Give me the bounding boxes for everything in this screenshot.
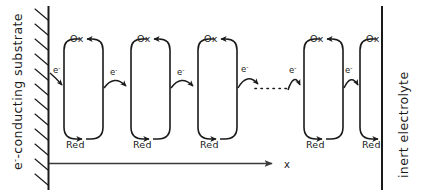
unit-2-bottom-arrow-to-red — [131, 127, 149, 139]
redox-unit-4: Ox Red — [304, 33, 343, 150]
substrate-boundary: e--conducting substrate — [10, 6, 49, 190]
diagram-canvas: e--conducting substrate inert electrolyt… — [0, 0, 428, 196]
electron-hop-0: e- — [50, 64, 62, 86]
electron-hop-5: e- — [344, 64, 358, 89]
redox-unit-3: Ox Red — [198, 33, 237, 150]
hop-2-arrow — [171, 80, 193, 88]
hop-1-label: e- — [110, 66, 117, 78]
substrate-label-rest: -conducting substrate — [10, 13, 25, 158]
hop-5-arrow — [344, 80, 358, 88]
hop-3-label: e- — [241, 63, 248, 75]
hop-4-arrow — [288, 80, 300, 90]
electron-hopping-diagram: e--conducting substrate inert electrolyt… — [0, 0, 428, 196]
unit-5-top-arrow-to-ox — [383, 39, 399, 50]
unit-2-red-label: Red — [133, 139, 152, 150]
unit-2-ox-label: Ox — [137, 33, 151, 44]
hop-5-label: e- — [345, 64, 352, 76]
electron-hop-1: e- — [104, 66, 126, 89]
unit-1-top-arrow-to-ox — [87, 39, 103, 50]
substrate-label: e--conducting substrate — [10, 13, 25, 170]
unit-3-red-label: Red — [200, 139, 219, 150]
electrolyte-label: inert electrolyte — [396, 71, 411, 178]
hop-4-label: e- — [289, 64, 296, 76]
electron-hop-4: e- — [288, 64, 300, 91]
electron-hop-2: e- — [171, 66, 193, 89]
unit-2-top-arrow-to-ox — [154, 39, 170, 50]
unit-4-top-arrow-to-ox — [327, 39, 343, 50]
hop-3-arrow — [238, 79, 258, 88]
unit-3-ox-label: Ox — [204, 33, 218, 44]
redox-unit-2: Ox Red — [131, 33, 170, 150]
unit-4-bottom-right-curve — [326, 127, 343, 139]
substrate-label-prefix: e — [10, 162, 25, 170]
unit-2-bottom-right-curve — [153, 127, 170, 139]
redox-unit-5: Ox Red — [360, 33, 399, 150]
hop-1-arrow — [104, 80, 126, 88]
electron-hop-3: e- — [238, 63, 258, 89]
electron-hops-group: e- e- e- e- — [50, 63, 358, 91]
electrolyte-boundary: inert electrolyte — [382, 6, 411, 190]
unit-3-bottom-arrow-to-red — [198, 127, 216, 139]
unit-1-red-label: Red — [66, 139, 85, 150]
unit-1-bottom-right-curve — [86, 127, 103, 139]
unit-1-bottom-arrow-to-red — [64, 127, 82, 139]
redox-units-group: Ox Red Ox Red Ox — [64, 33, 399, 150]
unit-3-top-arrow-to-ox — [221, 39, 237, 50]
unit-4-bottom-arrow-to-red — [304, 127, 322, 139]
hop-2-label: e- — [177, 66, 184, 78]
unit-5-ox-label: Ox — [366, 33, 380, 44]
substrate-hatching — [35, 9, 48, 185]
unit-4-red-label: Red — [306, 139, 325, 150]
x-axis: x — [49, 159, 290, 170]
hop-0-label: e- — [53, 64, 60, 76]
unit-5-bottom-arrow-to-red — [360, 127, 378, 139]
unit-1-ox-label: Ox — [70, 33, 84, 44]
x-axis-label: x — [284, 159, 290, 170]
unit-5-red-label: Red — [362, 139, 381, 150]
unit-3-bottom-right-curve — [220, 127, 237, 139]
redox-unit-1: Ox Red — [64, 33, 103, 150]
unit-4-ox-label: Ox — [310, 33, 324, 44]
